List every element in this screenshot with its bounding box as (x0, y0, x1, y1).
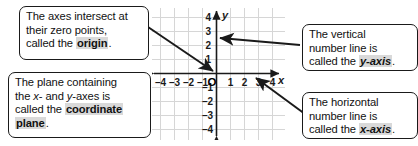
callout-plane-line3-pre: called the (15, 103, 65, 115)
coordinate-grid-graph: –4 –3 –2 –1 1 2 3 4 4 3 2 1 –1 –2 –3 –4 (152, 8, 285, 140)
svg-text:–2: –2 (183, 77, 195, 88)
callout-coordinate-plane: The plane containing the x- and y-axes i… (8, 72, 151, 138)
callout-plane-line2-mid: - and (39, 90, 67, 102)
svg-text:3: 3 (205, 26, 211, 37)
callout-yaxis-line3-pre: called the (309, 55, 359, 67)
callout-xaxis-line3: called the x-axis. (309, 123, 412, 137)
svg-text:–4: –4 (155, 77, 167, 88)
callout-yaxis-line1: The vertical (309, 28, 412, 42)
callout-xaxis-line1: The horizontal (309, 96, 412, 110)
svg-text:–3: –3 (202, 110, 214, 121)
term-x-axis: x-axis (359, 123, 392, 135)
x-axis-name-label: x (277, 74, 285, 86)
callout-yaxis-line3: called the y-axis. (309, 55, 412, 69)
svg-text:–3: –3 (169, 77, 181, 88)
callout-xaxis-line3-post: . (392, 123, 395, 135)
svg-text:4: 4 (270, 77, 276, 88)
term-y-axis: y-axis (359, 55, 392, 67)
svg-text:2: 2 (242, 77, 248, 88)
svg-text:4: 4 (205, 12, 211, 23)
origin-label: O (208, 76, 217, 88)
callout-x-axis: The horizontal number line is called the… (302, 92, 418, 139)
callout-origin-line3: called the origin. (26, 37, 143, 51)
term-origin: origin (76, 37, 108, 49)
y-axis-name-label: y (221, 9, 229, 21)
callout-yaxis-line3-post: . (392, 55, 395, 67)
callout-origin-line3-post: . (108, 37, 111, 49)
svg-text:1: 1 (228, 77, 234, 88)
callout-xaxis-line3-pre: called the (309, 123, 359, 135)
coordinate-plane-figure: –4 –3 –2 –1 1 2 3 4 4 3 2 1 –1 –2 –3 –4 (0, 0, 418, 146)
callout-plane-line3: called the coordinate (15, 103, 145, 117)
callout-plane-line2: the x- and y-axes is (15, 90, 145, 104)
callout-plane-line2-post: -axes is (72, 90, 110, 102)
callout-origin-line2: their zero points, (26, 24, 143, 38)
svg-text:–4: –4 (202, 124, 214, 135)
svg-text:3: 3 (256, 77, 262, 88)
svg-text:1: 1 (205, 54, 211, 65)
callout-plane-line4-post: . (46, 117, 49, 129)
svg-text:2: 2 (205, 40, 211, 51)
callout-origin-line1: The axes intersect at (26, 10, 143, 24)
callout-origin-line3-pre: called the (26, 37, 76, 49)
callout-plane-line2-pre: the (15, 90, 33, 102)
callout-xaxis-line2: number line is (309, 110, 412, 124)
term-plane: plane (15, 117, 46, 129)
callout-plane-line4: plane. (15, 117, 145, 131)
callout-yaxis-line2: number line is (309, 42, 412, 56)
callout-origin: The axes intersect at their zero points,… (19, 6, 149, 60)
term-coordinate: coordinate (65, 103, 123, 115)
svg-text:–2: –2 (202, 96, 214, 107)
callout-y-axis: The vertical number line is called the y… (302, 24, 418, 71)
callout-plane-line1: The plane containing (15, 76, 145, 90)
